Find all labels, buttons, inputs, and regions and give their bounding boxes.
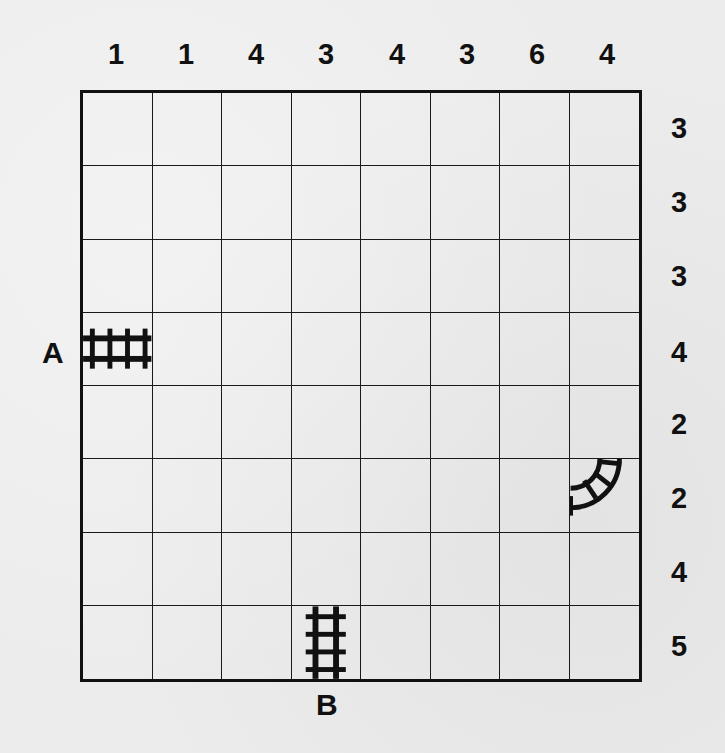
cell-r8-c6[interactable]	[431, 606, 501, 679]
column-clue-6: 3	[432, 38, 502, 71]
cell-r4-c8[interactable]	[570, 313, 640, 386]
cell-r5-c2[interactable]	[153, 386, 223, 459]
cell-r6-c8[interactable]	[570, 459, 640, 532]
row-clue-8: 5	[664, 630, 694, 663]
cell-r2-c1[interactable]	[83, 166, 153, 239]
cell-r5-c5[interactable]	[361, 386, 431, 459]
curved-track-icon	[570, 459, 640, 531]
cell-r3-c4[interactable]	[292, 240, 362, 313]
cell-r6-c4[interactable]	[292, 459, 362, 532]
cell-r8-c2[interactable]	[153, 606, 223, 679]
cell-r2-c3[interactable]	[222, 166, 292, 239]
column-clue-4: 3	[291, 38, 361, 71]
cell-r1-c3[interactable]	[222, 93, 292, 166]
cell-r3-c2[interactable]	[153, 240, 223, 313]
cell-r7-c7[interactable]	[500, 533, 570, 606]
endpoint-a-label: A	[42, 336, 64, 370]
column-clue-3: 4	[221, 38, 291, 71]
cell-r4-c7[interactable]	[500, 313, 570, 386]
cell-r8-c3[interactable]	[222, 606, 292, 679]
row-clue-5: 2	[664, 408, 694, 441]
cell-r4-c6[interactable]	[431, 313, 501, 386]
cell-r6-c6[interactable]	[431, 459, 501, 532]
cell-r6-c7[interactable]	[500, 459, 570, 532]
cell-r2-c2[interactable]	[153, 166, 223, 239]
cell-r8-c8[interactable]	[570, 606, 640, 679]
cell-r7-c5[interactable]	[361, 533, 431, 606]
cell-r7-c3[interactable]	[222, 533, 292, 606]
cell-r4-c2[interactable]	[153, 313, 223, 386]
cell-r3-c6[interactable]	[431, 240, 501, 313]
cell-r8-c5[interactable]	[361, 606, 431, 679]
cell-r2-c7[interactable]	[500, 166, 570, 239]
cell-r5-c1[interactable]	[83, 386, 153, 459]
cell-r6-c2[interactable]	[153, 459, 223, 532]
column-clue-8: 4	[572, 38, 642, 71]
cell-r1-c6[interactable]	[431, 93, 501, 166]
row-clue-4: 4	[664, 336, 694, 369]
cell-r4-c3[interactable]	[222, 313, 292, 386]
row-clue-1: 3	[664, 112, 694, 145]
cell-r6-c3[interactable]	[222, 459, 292, 532]
cell-r7-c1[interactable]	[83, 533, 153, 606]
cell-r2-c8[interactable]	[570, 166, 640, 239]
cell-r8-c1[interactable]	[83, 606, 153, 679]
column-clue-7: 6	[502, 38, 572, 71]
cell-r1-c2[interactable]	[153, 93, 223, 166]
cell-r5-c8[interactable]	[570, 386, 640, 459]
cell-r3-c3[interactable]	[222, 240, 292, 313]
puzzle-grid	[80, 90, 642, 682]
column-clue-5: 4	[362, 38, 432, 71]
row-clue-2: 3	[664, 186, 694, 219]
straight-track-vertical-icon	[292, 606, 361, 679]
cell-r1-c8[interactable]	[570, 93, 640, 166]
cell-r3-c7[interactable]	[500, 240, 570, 313]
cell-r3-c8[interactable]	[570, 240, 640, 313]
cell-r4-c1[interactable]	[83, 313, 153, 386]
cell-r5-c6[interactable]	[431, 386, 501, 459]
cell-r3-c5[interactable]	[361, 240, 431, 313]
cell-r5-c4[interactable]	[292, 386, 362, 459]
cell-r1-c1[interactable]	[83, 93, 153, 166]
cell-r2-c4[interactable]	[292, 166, 362, 239]
cell-r8-c7[interactable]	[500, 606, 570, 679]
cell-r7-c4[interactable]	[292, 533, 362, 606]
cell-r2-c5[interactable]	[361, 166, 431, 239]
column-clue-2: 1	[151, 38, 221, 71]
cell-r2-c6[interactable]	[431, 166, 501, 239]
cell-r7-c6[interactable]	[431, 533, 501, 606]
row-clue-7: 4	[664, 556, 694, 589]
cell-r5-c3[interactable]	[222, 386, 292, 459]
cell-r3-c1[interactable]	[83, 240, 153, 313]
straight-track-horizontal-icon	[83, 313, 152, 385]
row-clue-3: 3	[664, 260, 694, 293]
cell-r7-c8[interactable]	[570, 533, 640, 606]
cell-r6-c1[interactable]	[83, 459, 153, 532]
cell-r5-c7[interactable]	[500, 386, 570, 459]
cell-r7-c2[interactable]	[153, 533, 223, 606]
cell-r1-c5[interactable]	[361, 93, 431, 166]
cell-r4-c4[interactable]	[292, 313, 362, 386]
cell-r8-c4[interactable]	[292, 606, 362, 679]
cell-r4-c5[interactable]	[361, 313, 431, 386]
cell-r1-c4[interactable]	[292, 93, 362, 166]
row-clue-6: 2	[664, 482, 694, 515]
endpoint-b-label: B	[316, 688, 338, 722]
cell-r1-c7[interactable]	[500, 93, 570, 166]
column-clue-1: 1	[81, 38, 151, 71]
cell-r6-c5[interactable]	[361, 459, 431, 532]
train-tracks-puzzle: 1 1 4 3 4 3 6 4 3 3 3 4 2 2 4 5 A B	[0, 0, 725, 753]
